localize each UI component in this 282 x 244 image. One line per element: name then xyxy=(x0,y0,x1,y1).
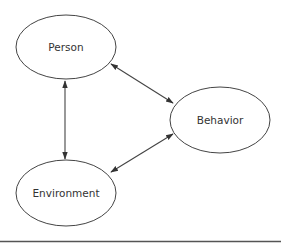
environment-label: Environment xyxy=(32,187,99,199)
person-label: Person xyxy=(48,41,83,53)
behavior-label: Behavior xyxy=(197,114,244,126)
reciprocal-diagram: Person Behavior Environment xyxy=(0,0,282,244)
